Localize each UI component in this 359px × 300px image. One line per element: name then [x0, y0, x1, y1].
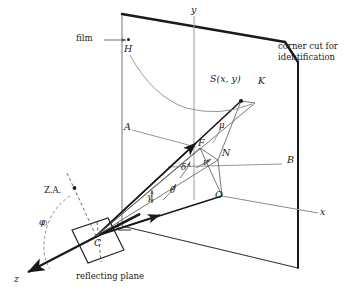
diagram-vector-layer [0, 0, 359, 300]
diagram-canvas: film corner cut for identification H S(x… [0, 0, 359, 300]
